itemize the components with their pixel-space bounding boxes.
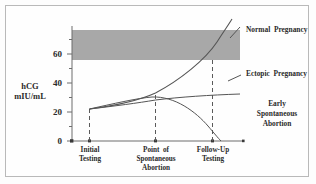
y-tick-label-60: 60 (38, 49, 62, 60)
x-label-point-of-sa-line1: Point of (124, 146, 188, 154)
annotation-early-sa-line2: Spontaneous (248, 110, 306, 119)
annotation-early-sa-line3: Abortion (248, 120, 306, 129)
dashed-droplines (90, 57, 213, 141)
annotation-ectopic-pregnancy: Ectopic Pregnancy (246, 70, 316, 79)
annotation-early-sa-line1: Early (248, 100, 306, 109)
y-tick-label-0: 0 (38, 136, 62, 147)
figure-container: 0 20 40 60 hCG mIU/mL Initial Testing Po… (0, 0, 316, 184)
y-axis-title-line2: mIU/mL (8, 91, 52, 101)
y-tick-label-20: 20 (38, 107, 62, 118)
y-axis-title-line1: hCG (10, 81, 50, 91)
x-label-initial-testing-line2: Testing (68, 155, 112, 163)
annotation-normal-pregnancy: Normal Pregnancy (246, 26, 316, 35)
x-label-point-of-sa-line2: Spontaneous (124, 155, 188, 163)
x-label-follow-up-testing-line2: Testing (188, 155, 238, 163)
x-label-initial-testing-line1: Initial (68, 146, 112, 154)
series-ectopic-pregnancy-curve (90, 94, 241, 109)
x-label-point-of-sa-line3: Abortion (124, 164, 188, 172)
ectopic-pregnancy-pointer-icon (228, 75, 241, 81)
x-label-follow-up-testing-line1: Follow-Up (188, 146, 238, 154)
